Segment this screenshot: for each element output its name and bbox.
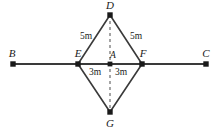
measurement-af: 3m bbox=[115, 67, 127, 77]
geometry-figure: D B E A F C G 5m 5m 3m 3m bbox=[0, 0, 214, 131]
point-g-dot bbox=[107, 109, 112, 114]
point-label-c: C bbox=[202, 48, 209, 59]
point-e-dot bbox=[75, 61, 80, 66]
point-label-b: B bbox=[9, 48, 16, 59]
point-label-e: E bbox=[75, 48, 82, 59]
point-f-dot bbox=[139, 61, 144, 66]
measurement-de: 5m bbox=[80, 31, 92, 41]
point-b-dot bbox=[10, 61, 15, 66]
point-label-d: D bbox=[106, 0, 114, 11]
measurement-df: 5m bbox=[130, 31, 142, 41]
point-c-dot bbox=[203, 61, 208, 66]
point-label-g: G bbox=[106, 118, 114, 129]
point-a-dot bbox=[108, 62, 113, 67]
diagram-canvas bbox=[0, 0, 214, 131]
point-label-a: A bbox=[110, 50, 116, 61]
measurement-ea: 3m bbox=[89, 67, 101, 77]
point-d-dot bbox=[107, 12, 112, 17]
point-label-f: F bbox=[140, 48, 147, 59]
